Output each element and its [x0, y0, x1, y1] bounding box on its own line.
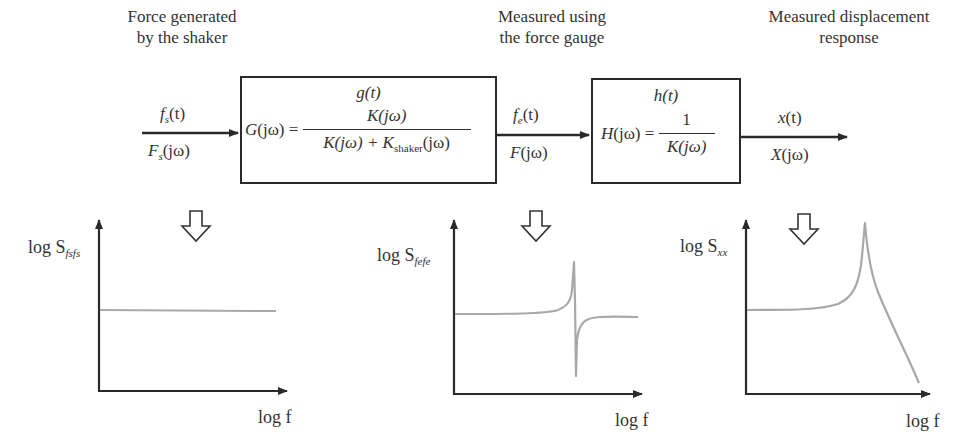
argument: (jω): [163, 141, 190, 160]
transfer-function-H: H(jω) = 1 K(jω): [601, 110, 715, 157]
chart1-ylabel: log Sfsfs: [28, 237, 80, 259]
xlabel: log f: [258, 407, 292, 427]
denominator-subscript: shaker: [394, 142, 423, 154]
impulse-response-h: h(t): [593, 86, 739, 106]
signal-input-freq: Fs(jω): [148, 141, 190, 162]
ylabel-subscript: fefe: [415, 255, 431, 267]
chart3-ylabel: log Sxx: [680, 236, 727, 258]
impulse-label: h(t): [654, 86, 679, 105]
lhs-argument: (jω) =: [613, 124, 654, 143]
chart2-xlabel: log f: [615, 410, 649, 431]
chart-force-shaker: [98, 220, 287, 392]
impulse-label: g(t): [356, 83, 381, 102]
diagram-graphics: [0, 0, 978, 448]
chart2-ylabel: log Sfefe: [377, 245, 430, 267]
signal-output-time: x(t): [778, 108, 802, 128]
impulse-response-g: g(t): [242, 83, 495, 103]
fraction: 1 K(jω): [659, 110, 715, 157]
transfer-function-G: G(jω) = K(jω) K(jω) + Kshaker(jω): [245, 106, 471, 154]
block-structure: h(t) H(jω) = 1 K(jω): [591, 78, 741, 184]
denominator: K(jω) + Kshaker(jω): [303, 130, 471, 154]
signal-middle-freq: F(jω): [510, 143, 548, 163]
denominator: K(jω): [659, 134, 715, 157]
signal-output-freq: X(jω): [771, 145, 809, 165]
signal-input-time: fs(t): [160, 104, 185, 125]
symbol: X: [771, 145, 781, 164]
argument: (t): [786, 108, 802, 127]
symbol: F: [148, 141, 158, 160]
symbol: x: [778, 108, 786, 127]
argument: (jω): [781, 145, 808, 164]
argument: (t): [523, 105, 539, 124]
xlabel: log f: [906, 411, 940, 431]
lhs-symbol: H: [601, 124, 613, 143]
spectrum-curve: [455, 262, 638, 376]
ylabel-main: log S: [28, 237, 66, 257]
symbol: F: [510, 143, 520, 162]
spectrum-curve: [100, 310, 276, 311]
denominator-part: K(jω) + K: [323, 133, 394, 152]
numerator: 1: [659, 110, 715, 134]
chart-displacement: [745, 220, 930, 395]
chart3-xlabel: log f: [906, 411, 940, 432]
lhs-symbol: G: [245, 120, 257, 139]
chart-force-gauge: [453, 220, 642, 395]
argument: (t): [169, 104, 185, 123]
spectrum-curve: [747, 223, 919, 383]
ylabel-subscript: fsfs: [66, 247, 81, 259]
ylabel-main: log S: [680, 236, 718, 256]
lhs-argument: (jω) =: [257, 120, 298, 139]
chart1-xlabel: log f: [258, 407, 292, 428]
denominator-argument: (jω): [423, 133, 450, 152]
block-shaker-coupling: g(t) G(jω) = K(jω) K(jω) + Kshaker(jω): [240, 76, 497, 184]
argument: (jω): [520, 143, 547, 162]
ylabel-subscript: xx: [718, 246, 728, 258]
ylabel-main: log S: [377, 245, 415, 265]
fraction: K(jω) K(jω) + Kshaker(jω): [303, 106, 471, 154]
signal-middle-time: fe(t): [513, 105, 539, 126]
numerator: K(jω): [303, 106, 471, 130]
hollow-down-arrow-icon: [182, 211, 210, 241]
hollow-down-arrow-icon: [522, 211, 550, 241]
hollow-down-arrow-icon: [790, 214, 818, 244]
xlabel: log f: [615, 410, 649, 430]
